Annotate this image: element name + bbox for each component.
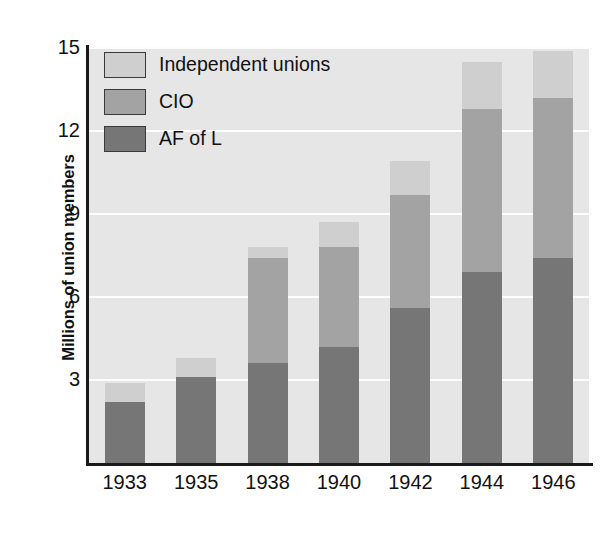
bar-segment-1935-af-of-l: [176, 377, 216, 463]
bar-segment-1942-af-of-l: [390, 308, 430, 463]
bar-segment-1942-cio: [390, 195, 430, 308]
y-tick-label-3: 3: [6, 369, 80, 389]
bar-segment-1944-independent-unions: [462, 62, 502, 109]
bar-group-1944: [462, 48, 502, 463]
bar-segment-1940-cio: [319, 247, 359, 347]
legend-item-cio: CIO: [104, 89, 194, 115]
legend-label: AF of L: [159, 129, 222, 149]
bar-segment-1942-independent-unions: [390, 161, 430, 194]
bar-group-1946: [533, 48, 573, 463]
x-tick-label-1940: 1940: [299, 472, 379, 492]
x-tick-label-1938: 1938: [228, 472, 308, 492]
y-tick-label-9: 9: [6, 203, 80, 223]
bar-group-1940: [319, 48, 359, 463]
bar-segment-1944-cio: [462, 109, 502, 272]
bar-segment-1944-af-of-l: [462, 272, 502, 463]
x-tick-label-1935: 1935: [156, 472, 236, 492]
x-tick-label-1944: 1944: [442, 472, 522, 492]
bar-segment-1946-af-of-l: [533, 258, 573, 463]
legend-item-af-of-l: AF of L: [104, 126, 222, 152]
bar-segment-1938-af-of-l: [248, 363, 288, 463]
bar-segment-1940-independent-unions: [319, 222, 359, 247]
legend-item-independent-unions: Independent unions: [104, 52, 330, 78]
y-tick-label-15: 15: [6, 37, 80, 57]
y-axis-line: [86, 45, 89, 466]
union-membership-chart: Millions of union members 3691215 193319…: [0, 0, 604, 558]
bar-segment-1933-independent-unions: [105, 383, 145, 402]
bar-segment-1946-independent-unions: [533, 51, 573, 98]
bar-segment-1938-cio: [248, 258, 288, 363]
x-axis-line: [86, 463, 593, 466]
legend-label: CIO: [159, 92, 194, 112]
x-tick-label-1933: 1933: [85, 472, 165, 492]
y-tick-label-12: 12: [6, 120, 80, 140]
bar-segment-1933-af-of-l: [105, 402, 145, 463]
legend-swatch-icon: [104, 89, 146, 115]
y-axis-title: Millions of union members: [59, 128, 78, 388]
y-tick-label-6: 6: [6, 286, 80, 306]
bar-group-1942: [390, 48, 430, 463]
bar-segment-1938-independent-unions: [248, 247, 288, 258]
legend-swatch-icon: [104, 52, 146, 78]
x-tick-label-1942: 1942: [370, 472, 450, 492]
bar-segment-1946-cio: [533, 98, 573, 258]
bar-segment-1940-af-of-l: [319, 347, 359, 463]
legend-label: Independent unions: [159, 55, 330, 75]
bar-segment-1935-independent-unions: [176, 358, 216, 377]
x-tick-label-1946: 1946: [513, 472, 593, 492]
bar-group-1938: [248, 48, 288, 463]
legend-swatch-icon: [104, 126, 146, 152]
